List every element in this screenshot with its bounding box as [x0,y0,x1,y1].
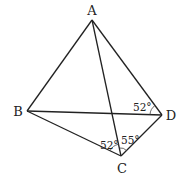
point-labels: A B D C [13,3,176,176]
angle-label-ACD: 55° [121,134,140,146]
label-C: C [117,161,127,176]
label-A: A [86,3,97,18]
angle-label-BCA: 52° [100,139,119,151]
segment-AB [27,20,92,111]
label-D: D [166,108,176,123]
angle-label-ADB: 52° [133,101,152,113]
label-B: B [13,104,23,119]
edges [27,20,162,156]
angle-labels: 52° 52° 55° [100,101,152,151]
angle-arc-ACD [120,148,127,151]
geometry-figure: A B D C 52° 52° 55° [0,0,183,187]
